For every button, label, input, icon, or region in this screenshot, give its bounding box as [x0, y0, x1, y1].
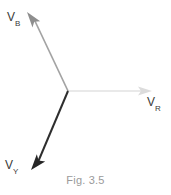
vector-vy-shaft: [38, 91, 68, 162]
vector-vy: [31, 91, 68, 170]
vector-vy-arrowhead: [31, 154, 45, 170]
phasor-vector-canvas: [0, 0, 171, 195]
vector-label-vb-subscript: B: [15, 19, 20, 28]
vector-vb: [27, 12, 68, 91]
vector-vb-arrowhead: [27, 12, 40, 28]
vector-vb-shaft: [34, 19, 68, 91]
figure-caption: Fig. 3.5: [0, 174, 171, 186]
vector-label-vb-base: V: [7, 10, 15, 24]
vector-label-vr-base: V: [147, 95, 155, 109]
phasor-diagram-figure: VB VY VR Fig. 3.5: [0, 0, 171, 195]
vector-vr: [68, 87, 152, 96]
vector-label-vr-subscript: R: [155, 104, 161, 113]
vector-label-vy-base: V: [5, 158, 13, 172]
vector-label-vb: VB: [7, 11, 20, 26]
vector-label-vr: VR: [147, 96, 161, 111]
vector-label-vy: VY: [5, 159, 18, 174]
